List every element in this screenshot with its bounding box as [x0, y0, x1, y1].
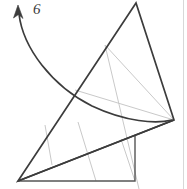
chord-line — [18, 120, 174, 181]
rotation-arc — [19, 14, 172, 122]
arrow-head-icon — [14, 5, 24, 19]
rotated-triangle — [18, 3, 174, 181]
rotation-angle-label: 6 — [33, 2, 41, 17]
geometry-figure: 6 — [0, 0, 187, 189]
construction-line-square-diag — [121, 139, 135, 181]
construction-lines-group — [45, 45, 174, 189]
figure-canvas — [0, 0, 187, 189]
construction-line-apex-right — [105, 45, 174, 120]
